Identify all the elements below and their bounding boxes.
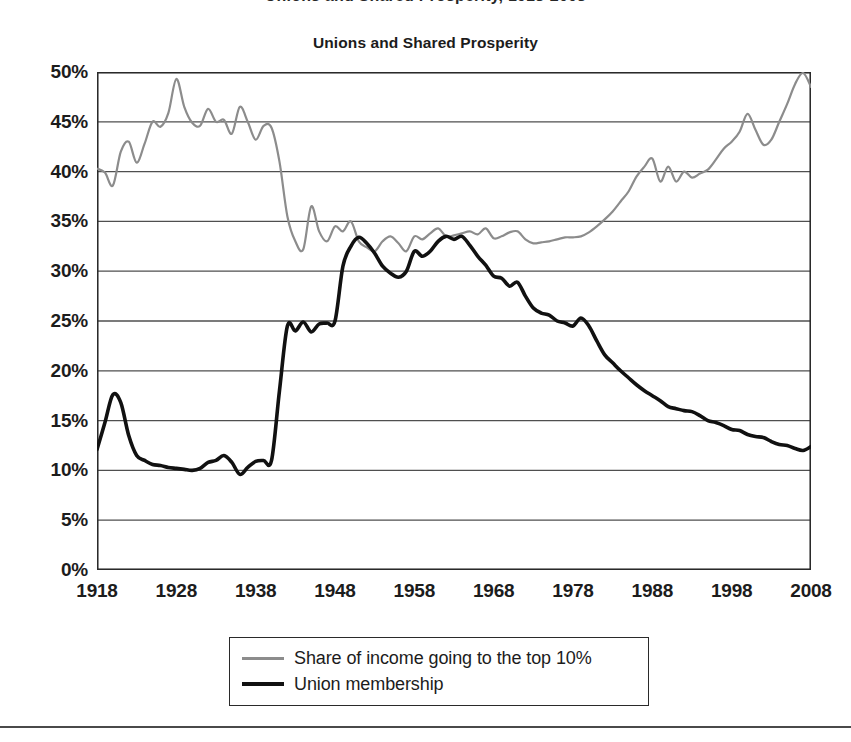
footer-divider <box>0 726 851 728</box>
x-axis-tick-label: 1998 <box>711 580 752 602</box>
chart-legend: Share of income going to the top 10% Uni… <box>229 637 649 706</box>
x-axis-tick-label: 1978 <box>552 580 593 602</box>
y-axis-tick-label: 50% <box>51 61 88 83</box>
legend-label: Share of income going to the top 10% <box>294 648 592 669</box>
legend-line-swatch-gray-icon <box>242 657 284 660</box>
x-axis-tick-label: 1918 <box>76 580 117 602</box>
x-axis-tick-labels: 1918192819381948195819681978198819982008 <box>97 580 811 610</box>
y-axis-tick-label: 5% <box>61 509 88 531</box>
chart-canvas <box>97 72 811 570</box>
chart-page: Unions and Shared Prosperity, 1918-2008 … <box>0 0 851 742</box>
x-axis-tick-label: 1958 <box>394 580 435 602</box>
x-axis-tick-label: 1988 <box>632 580 673 602</box>
y-axis-tick-label: 40% <box>51 161 88 183</box>
x-axis-tick-label: 1938 <box>235 580 276 602</box>
cropped-header-clip: Unions and Shared Prosperity, 1918-2008 <box>0 0 851 14</box>
cropped-header-text: Unions and Shared Prosperity, 1918-2008 <box>0 0 851 5</box>
chart-title: Unions and Shared Prosperity <box>0 34 851 52</box>
x-axis-tick-label: 1948 <box>314 580 355 602</box>
y-axis-tick-label: 20% <box>51 360 88 382</box>
y-axis-tick-label: 0% <box>61 559 88 581</box>
y-axis-tick-label: 10% <box>51 459 88 481</box>
y-axis-tick-labels: 0%5%10%15%20%25%30%35%40%45%50% <box>0 72 88 570</box>
y-axis-tick-label: 45% <box>51 111 88 133</box>
plot-area <box>97 72 811 570</box>
legend-item-union-membership: Union membership <box>242 671 638 697</box>
y-axis-tick-label: 25% <box>51 310 88 332</box>
y-axis-tick-label: 35% <box>51 210 88 232</box>
x-axis-tick-label: 1928 <box>156 580 197 602</box>
y-axis-tick-label: 30% <box>51 260 88 282</box>
legend-label: Union membership <box>294 674 443 695</box>
series-line-union-membership <box>97 236 811 474</box>
y-axis-tick-label: 15% <box>51 410 88 432</box>
legend-item-share-of-income: Share of income going to the top 10% <box>242 645 638 671</box>
series-line-share-of-income-going-to-the-top-10 <box>97 73 811 251</box>
legend-line-swatch-black-icon <box>242 682 284 686</box>
x-axis-tick-label: 2008 <box>790 580 831 602</box>
x-axis-tick-label: 1968 <box>473 580 514 602</box>
